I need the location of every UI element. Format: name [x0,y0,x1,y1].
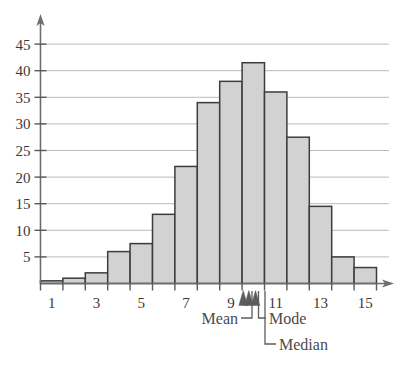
y-tick-label-20: 20 [16,170,31,186]
x-tick-label-11: 11 [268,295,282,311]
x-tick-label-3: 3 [93,295,101,311]
bar-8 [197,103,219,284]
x-tick-label-13: 13 [313,295,328,311]
histogram-figure: 51015202530354045 13579111315 Mean Mode … [0,0,402,367]
y-axis-ticks: 51015202530354045 [16,37,47,266]
bar-10 [242,63,264,284]
bar-11 [265,92,287,284]
bar-4 [108,252,130,284]
y-tick-label-35: 35 [16,90,31,106]
x-axis-ticks: 13579111315 [41,284,377,311]
bar-14 [332,257,354,284]
x-tick-label-1: 1 [48,295,56,311]
y-tick-label-25: 25 [16,143,31,159]
histogram-bars [41,63,377,284]
bar-15 [354,268,376,284]
x-tick-label-7: 7 [182,295,190,311]
mode-callout-label: Mode [269,310,306,327]
bar-12 [287,137,309,283]
bar-6 [153,214,175,283]
bar-7 [175,166,197,283]
statistic-markers [239,291,260,306]
y-tick-label-5: 5 [23,249,31,265]
y-tick-label-40: 40 [16,63,31,79]
bar-9 [220,81,242,283]
y-tick-label-15: 15 [16,196,31,212]
histogram-plot-area: 51015202530354045 13579111315 Mean Mode … [0,0,402,367]
y-tick-label-45: 45 [16,37,31,53]
bar-13 [309,206,331,283]
y-tick-label-10: 10 [16,223,31,239]
x-tick-label-9: 9 [227,295,235,311]
median-callout-label: Median [279,336,328,353]
bar-3 [85,273,107,284]
bar-5 [130,244,152,284]
x-tick-label-5: 5 [138,295,146,311]
y-tick-label-30: 30 [16,116,31,132]
x-tick-label-15: 15 [358,295,373,311]
mean-callout-label: Mean [202,310,238,327]
